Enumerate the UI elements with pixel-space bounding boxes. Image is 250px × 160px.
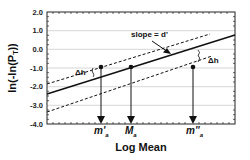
- y-tick-neg2: -2.0: [30, 82, 43, 91]
- label-M: Ma: [125, 125, 137, 138]
- y-tick-labels: 2.0 1.0 0.0 -1.0 -2.0 -3.0 -4.0: [30, 8, 43, 129]
- delta-h-left-bracket: [92, 68, 94, 77]
- delta-h-right-bracket: [198, 50, 200, 62]
- solid-line: [47, 35, 235, 94]
- y-tick-neg1: -1.0: [30, 64, 43, 73]
- y-tick-neg4: -4.0: [30, 120, 43, 129]
- y-tick-0: 0.0: [33, 45, 43, 54]
- y-tick-neg3: -3.0: [30, 101, 43, 110]
- lower-dashed-line: [47, 56, 212, 112]
- y-tick-2: 2.0: [33, 8, 43, 17]
- slope-label: slope = d': [131, 30, 168, 39]
- delta-h-left-label: Δh: [75, 68, 86, 77]
- marker-m-prime: [97, 65, 105, 124]
- chart: 2.0 1.0 0.0 -1.0 -2.0 -3.0 -4.0 ln(-ln(P…: [0, 0, 250, 160]
- marker-m-double-prime: [189, 65, 197, 124]
- x-axis-title: Log Mean: [115, 141, 167, 153]
- label-m-double-prime: m''a: [186, 125, 204, 138]
- y-tick-1: 1.0: [33, 26, 43, 35]
- marker-M: [127, 65, 135, 124]
- y-axis-title: ln(-ln(PT)): [6, 43, 19, 93]
- upper-dashed-line: [47, 34, 210, 84]
- label-m-prime: m'a: [94, 125, 109, 138]
- delta-h-right-label: Δh: [208, 56, 219, 65]
